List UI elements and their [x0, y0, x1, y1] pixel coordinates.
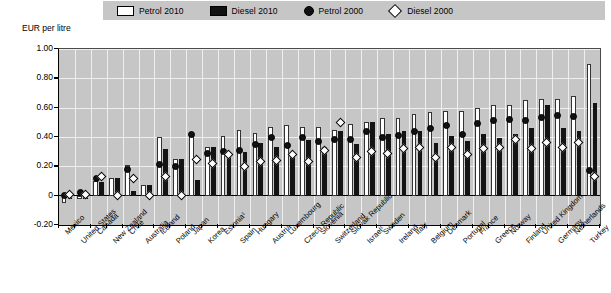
y-axis-tick-label: 0.40 [19, 131, 53, 141]
x-axis-tick-label: Turkey [588, 223, 611, 246]
y-axis-tick [54, 107, 58, 108]
legend-label: Diesel 2000 [407, 6, 453, 16]
legend-item-petrol-2010: Petrol 2010 [117, 6, 184, 16]
y-axis-tick [54, 48, 58, 49]
legend-label: Petrol 2010 [139, 6, 184, 16]
y-axis-tick [54, 77, 58, 78]
y-axis-tick [54, 165, 58, 166]
y-axis-tick [54, 195, 58, 196]
chart-legend: Petrol 2010 Diesel 2010 Petrol 2000 Dies… [103, 1, 605, 20]
legend-item-diesel-2000: Diesel 2000 [389, 6, 453, 16]
filled-circle-marker-icon [304, 6, 314, 16]
y-axis-tick [54, 136, 58, 137]
legend-item-petrol-2000: Petrol 2000 [304, 6, 364, 16]
plot-area: 1.000.800.600.400.200-0.20 MexicoUnited … [58, 48, 601, 226]
bar-diesel [593, 103, 598, 195]
y-axis-tick-label: 0.80 [19, 72, 53, 82]
legend-label: Diesel 2010 [232, 6, 278, 16]
bar-group [59, 49, 600, 225]
y-axis-tick-label: 0.60 [19, 102, 53, 112]
y-axis-tick-label: 1.00 [19, 43, 53, 53]
y-axis-tick-label: 0 [19, 190, 53, 200]
solid-rect-swatch-icon [210, 6, 227, 16]
y-axis-tick-label: -0.20 [19, 219, 53, 229]
open-rect-swatch-icon [117, 6, 134, 16]
legend-item-diesel-2010: Diesel 2010 [210, 6, 278, 16]
plot-canvas [58, 48, 601, 226]
x-axis-tick [58, 224, 59, 228]
open-diamond-marker-icon [388, 3, 402, 17]
y-axis-title: EUR per litre [22, 23, 71, 33]
legend-label: Petrol 2000 [319, 6, 364, 16]
y-axis-tick-label: 0.20 [19, 160, 53, 170]
